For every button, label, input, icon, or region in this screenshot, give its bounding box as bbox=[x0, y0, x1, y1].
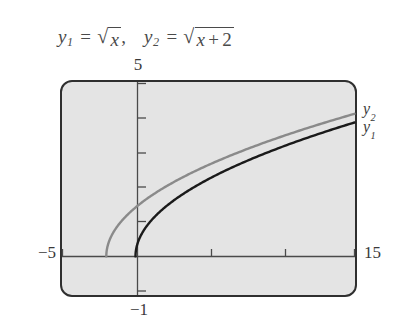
radical-sign-icon: √ bbox=[97, 26, 108, 46]
equation-y1-subscript: 1 bbox=[67, 35, 73, 50]
curve-label-y2-variable: y bbox=[363, 100, 370, 117]
axis-label-y-min: −1 bbox=[123, 300, 155, 320]
curve-label-y1-subscript: 1 bbox=[371, 130, 376, 141]
radicand-x-plus-2: x+2 bbox=[195, 27, 234, 51]
equation-y1-equals: = bbox=[80, 26, 91, 48]
equation-y2-subscript: 2 bbox=[153, 35, 159, 50]
equation-y2-variable: y bbox=[144, 26, 153, 48]
equation-y1: y1 = √ x , bbox=[58, 26, 126, 51]
equation-y2: y2 = √ x+2 bbox=[144, 26, 234, 51]
radicand-constant: 2 bbox=[222, 29, 232, 50]
curve-label-y1: y1 bbox=[363, 118, 376, 138]
equation-caption: y1 = √ x , y2 = √ x+2 bbox=[58, 18, 234, 58]
radicand-variable: x bbox=[197, 29, 206, 50]
radical-sign-icon: √ bbox=[183, 26, 194, 46]
axis-label-y-max: 5 bbox=[125, 55, 151, 75]
radicand-operator: + bbox=[208, 29, 219, 50]
axis-label-x-min: −5 bbox=[16, 243, 56, 263]
radical-sqrt-x-plus-2: √ x+2 bbox=[183, 26, 234, 51]
plot-frame bbox=[60, 80, 357, 297]
equation-y2-equals: = bbox=[166, 26, 177, 48]
equation-separator-comma: , bbox=[121, 26, 126, 48]
axis-label-x-max: 15 bbox=[364, 243, 381, 263]
radicand-x: x bbox=[108, 27, 121, 51]
equation-y1-variable: y bbox=[58, 26, 67, 48]
radical-sqrt-x: √ x bbox=[97, 26, 121, 51]
curve-label-y1-variable: y bbox=[363, 118, 370, 135]
